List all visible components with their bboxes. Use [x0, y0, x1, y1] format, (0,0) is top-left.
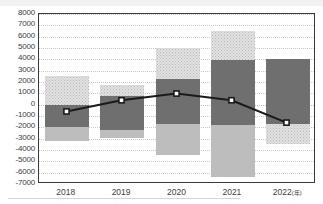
bottom-rule-decoration [8, 198, 240, 199]
y-tick-label--3000: -3000 [16, 134, 35, 142]
x-tick-label-2022: 2022(年) [273, 187, 302, 197]
bar-segment-2020-upper-band [156, 48, 200, 79]
y-tick-label--5000: -5000 [16, 156, 35, 164]
y-tick-label--2000: -2000 [16, 122, 35, 130]
y-tick-label-7000: 7000 [18, 20, 35, 28]
gridline-8000 [39, 14, 314, 15]
y-tick-label--6000: -6000 [16, 168, 35, 176]
x-tick-label-2019: 2019 [112, 187, 131, 197]
y-tick-label-5000: 5000 [18, 43, 35, 51]
bar-segment-2018-mid-band [45, 105, 89, 128]
x-tick-label-2020: 2020 [167, 187, 186, 197]
chart-container: 800070006000500040003000200010000-1000-2… [0, 0, 323, 204]
gridline--5000 [39, 161, 314, 162]
y-tick-label--4000: -4000 [16, 145, 35, 153]
bar-segment-2018-lower-band [45, 127, 89, 141]
bar-segment-2021-mid-band [211, 60, 255, 125]
y-tick-label--1000: -1000 [16, 111, 35, 119]
y-tick-label-8000: 8000 [18, 9, 35, 17]
bar-segment-2022-lower-band [266, 124, 310, 144]
bar-segment-2019-upper-band [100, 85, 144, 95]
bar-segment-2022-mid-band [266, 59, 310, 124]
top-band-decoration [0, 0, 323, 6]
bar-segment-2021-lower-band [211, 125, 255, 177]
gridline-7000 [39, 25, 314, 26]
x-tick-label-2018: 2018 [56, 187, 75, 197]
y-axis-labels: 800070006000500040003000200010000-1000-2… [0, 0, 38, 204]
y-tick-label-6000: 6000 [18, 32, 35, 40]
bar-segment-2020-mid-band [156, 79, 200, 124]
y-tick-label-4000: 4000 [18, 54, 35, 62]
bar-segment-2021-upper-band [211, 31, 255, 60]
bar-segment-2020-lower-band [156, 124, 200, 155]
x-tick-label-2021: 2021 [222, 187, 241, 197]
y-tick-label-0: 0 [31, 100, 35, 108]
y-tick-label-3000: 3000 [18, 66, 35, 74]
bar-segment-2018-upper-band [45, 76, 89, 104]
gridline--6000 [39, 173, 314, 174]
x-axis-labels: 20182019202020212022(年) [38, 185, 315, 204]
gridline-6000 [39, 37, 314, 38]
y-tick-label-1000: 1000 [18, 88, 35, 96]
bar-segment-2019-mid-band [100, 96, 144, 130]
y-tick-label-2000: 2000 [18, 77, 35, 85]
bar-segment-2019-lower-band [100, 130, 144, 138]
y-tick-label--7000: -7000 [16, 179, 35, 187]
plot-area [38, 13, 315, 183]
